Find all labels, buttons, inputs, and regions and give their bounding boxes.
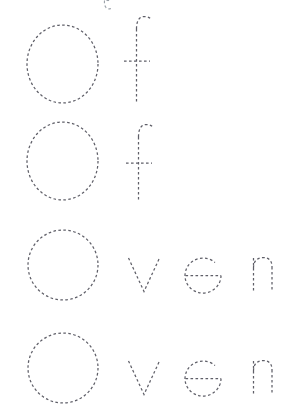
- letter-n-row4: [254, 361, 273, 396]
- letter-e-row4: [185, 361, 221, 396]
- letter-f-row1: [124, 17, 152, 104]
- letter-f-row2: [126, 125, 154, 202]
- letter-O-row2: [27, 122, 98, 200]
- tracing-canvas: [0, 0, 300, 417]
- letter-O-row4: [28, 333, 98, 403]
- letter-v-row4: [129, 361, 160, 395]
- trace-row-4: [28, 333, 272, 403]
- letter-n-row3: [254, 258, 273, 293]
- tracing-worksheet: [0, 0, 300, 417]
- letter-O-row3: [28, 230, 98, 300]
- top-glyph-fragment: [104, 1, 111, 9]
- letter-O-row1: [27, 25, 98, 103]
- trace-row-3: [28, 230, 272, 300]
- letter-v-row3: [129, 258, 160, 292]
- letter-e-row3: [185, 258, 221, 293]
- trace-row-2: [27, 122, 154, 201]
- trace-row-1: [27, 17, 152, 104]
